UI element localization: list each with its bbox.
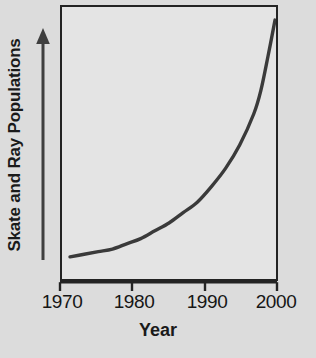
y-axis-label: Skate and Ray Populations <box>5 38 25 251</box>
y-axis-label-container: Skate and Ray Populations <box>0 0 30 290</box>
x-axis-tick-labels: 1970 1980 1990 2000 <box>0 291 316 315</box>
chart-figure: Skate and Ray Populations 1970 1980 1990… <box>0 0 316 358</box>
x-tick-label-1980: 1980 <box>94 291 174 313</box>
x-tick-label-1990: 1990 <box>167 291 247 313</box>
x-axis-label: Year <box>0 320 316 341</box>
arrow-up-icon <box>32 28 54 260</box>
x-tick-label-1970: 1970 <box>22 291 102 313</box>
data-curve <box>62 7 276 279</box>
plot-area <box>60 5 278 281</box>
x-tick-label-2000: 2000 <box>236 291 316 313</box>
